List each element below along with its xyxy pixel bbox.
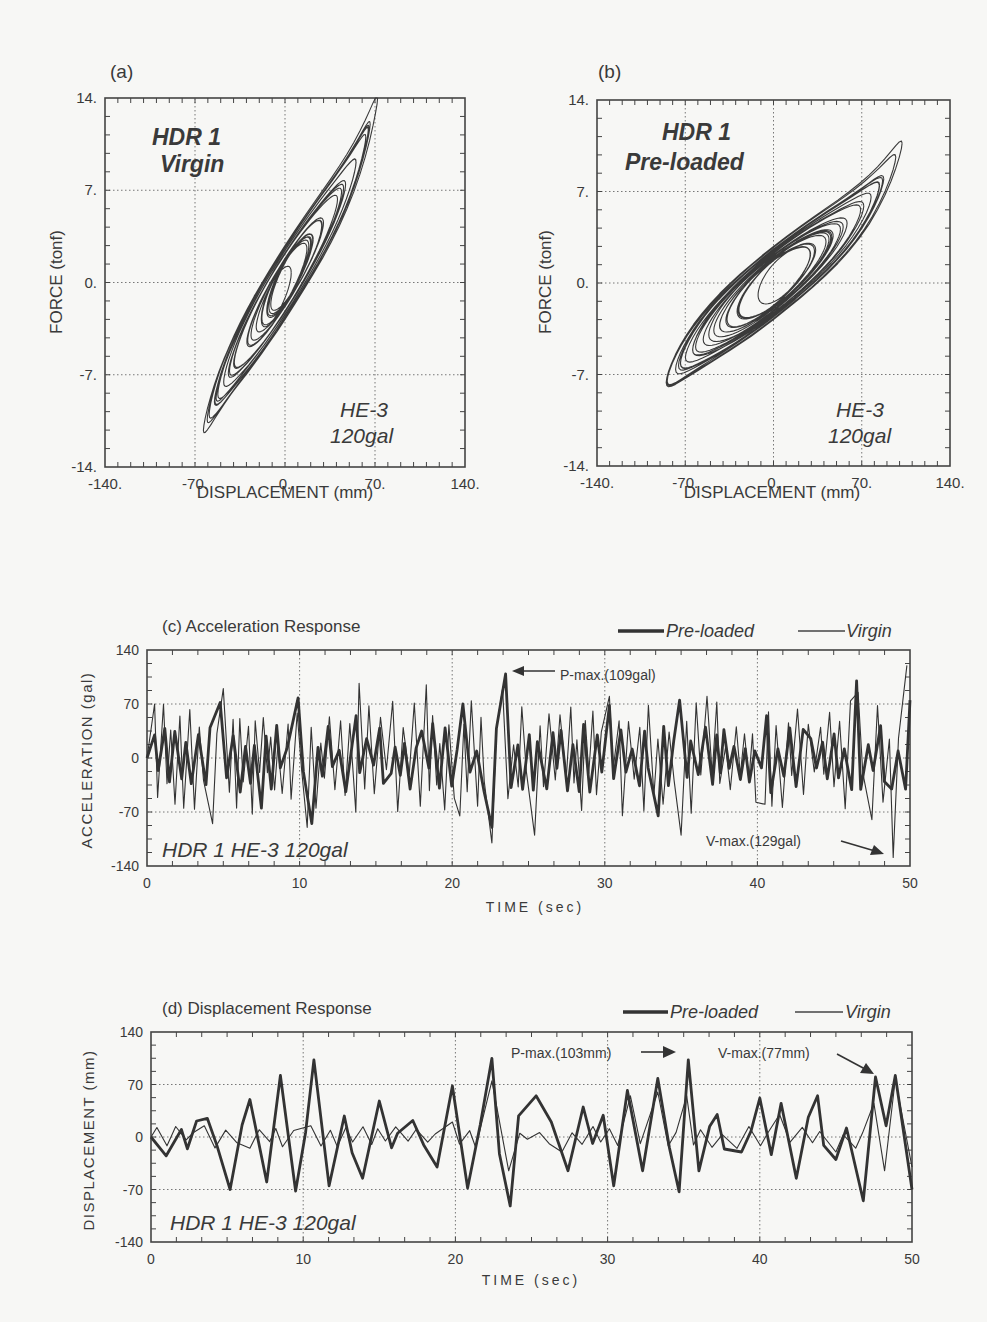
panel-b-ylabel: FORCE (tonf) <box>536 230 555 334</box>
panel-a-annotation-line1: HE-3 <box>340 398 388 421</box>
svg-text:-70: -70 <box>123 1182 143 1198</box>
panel-d-annotation-pmax: P-max.(103mm) <box>511 1045 611 1061</box>
svg-text:0.: 0. <box>84 274 97 291</box>
panel-b-hysteresis-curve <box>666 141 902 387</box>
panel-d-legend: Pre-loaded Virgin <box>623 1002 891 1022</box>
panel-b: (b) -140.-70.0.70.140.14.7.0.-7.-14. HDR… <box>536 61 965 502</box>
svg-text:140.: 140. <box>450 475 479 492</box>
svg-text:20: 20 <box>448 1251 464 1267</box>
svg-text:40: 40 <box>752 1251 768 1267</box>
panel-c-time-series <box>147 665 910 857</box>
svg-text:-140: -140 <box>111 858 139 874</box>
svg-text:0: 0 <box>131 750 139 766</box>
svg-text:50: 50 <box>904 1251 920 1267</box>
panel-d-xlabel: TIME (sec) <box>482 1272 580 1288</box>
panel-c-inner-label: HDR 1 HE-3 120gal <box>162 838 349 861</box>
legend-virgin-label: Virgin <box>846 621 892 641</box>
panel-a-hysteresis-curve <box>203 98 377 433</box>
panel-a-annotation-line2: 120gal <box>330 424 394 447</box>
panel-b-xlabel: DISPLACEMENT (mm) <box>684 483 860 502</box>
svg-text:140.: 140. <box>935 474 964 491</box>
svg-text:-7.: -7. <box>571 366 589 383</box>
svg-text:0.: 0. <box>576 274 589 291</box>
panel-c-annotation-pmax: P-max.(109gal) <box>560 667 656 683</box>
panel-b-annotation-line1: HE-3 <box>836 398 884 421</box>
legend-preloaded-label: Pre-loaded <box>670 1002 759 1022</box>
svg-text:70: 70 <box>127 1077 143 1093</box>
panel-a-label: (a) <box>110 61 133 82</box>
panel-c-annotation-vmax: V-max.(129gal) <box>706 833 801 849</box>
panel-d: (d) Displacement Response Pre-loaded Vir… <box>80 999 920 1288</box>
panel-a-title-line2: Virgin <box>160 151 224 177</box>
panel-a-ylabel: FORCE (tonf) <box>47 230 66 334</box>
svg-text:7.: 7. <box>84 181 97 198</box>
svg-text:20: 20 <box>444 875 460 891</box>
figure-canvas: (a) -140.-70.0.70.140.14.7.0.-7.-14. HDR… <box>0 0 987 1322</box>
svg-text:-70: -70 <box>119 804 139 820</box>
panel-a-title-line1: HDR 1 <box>152 124 221 150</box>
svg-text:-14.: -14. <box>563 457 589 474</box>
svg-text:140: 140 <box>116 642 140 658</box>
panel-c-legend: Pre-loaded Virgin <box>618 621 892 641</box>
svg-text:10: 10 <box>292 875 308 891</box>
panel-a-axes: -140.-70.0.70.140.14.7.0.-7.-14. <box>71 89 479 492</box>
legend-preloaded-label: Pre-loaded <box>666 621 755 641</box>
panel-a-xlabel: DISPLACEMENT (mm) <box>197 483 373 502</box>
svg-text:40: 40 <box>750 875 766 891</box>
panel-b-annotation-line2: 120gal <box>828 424 892 447</box>
panel-d-ylabel: DISPLACEMENT (mm) <box>80 1049 97 1230</box>
svg-text:-7.: -7. <box>79 366 97 383</box>
panel-d-title: (d) Displacement Response <box>162 999 372 1018</box>
panel-b-axes: -140.-70.0.70.140.14.7.0.-7.-14. <box>563 91 964 491</box>
svg-text:10: 10 <box>295 1251 311 1267</box>
panel-c-title: (c) Acceleration Response <box>162 617 360 636</box>
svg-text:0: 0 <box>147 1251 155 1267</box>
svg-text:0: 0 <box>135 1129 143 1145</box>
panel-d-annotation-vmax: V-max.(77mm) <box>718 1045 810 1061</box>
svg-text:-140: -140 <box>115 1234 143 1250</box>
panel-b-title-line1: HDR 1 <box>662 119 731 145</box>
svg-text:50: 50 <box>902 875 918 891</box>
panel-b-title-line2: Pre-loaded <box>625 149 745 175</box>
panel-d-inner-label: HDR 1 HE-3 120gal <box>170 1211 357 1234</box>
svg-text:-14.: -14. <box>71 458 97 475</box>
legend-virgin-label: Virgin <box>845 1002 891 1022</box>
svg-text:14.: 14. <box>76 89 97 106</box>
panel-d-time-series <box>151 1058 912 1206</box>
svg-text:-140.: -140. <box>580 474 614 491</box>
svg-text:140: 140 <box>120 1024 144 1040</box>
svg-text:14.: 14. <box>568 91 589 108</box>
panel-c-ylabel: ACCELERATION (gal) <box>78 672 95 849</box>
svg-text:7.: 7. <box>576 183 589 200</box>
svg-text:30: 30 <box>600 1251 616 1267</box>
panel-c-xlabel: TIME (sec) <box>486 899 584 915</box>
panel-c: (c) Acceleration Response Pre-loaded Vir… <box>78 617 918 915</box>
panel-a: (a) -140.-70.0.70.140.14.7.0.-7.-14. HDR… <box>47 61 480 502</box>
svg-text:30: 30 <box>597 875 613 891</box>
svg-text:70: 70 <box>123 696 139 712</box>
panel-b-label: (b) <box>598 61 621 82</box>
svg-text:-140.: -140. <box>88 475 122 492</box>
svg-text:0: 0 <box>143 875 151 891</box>
